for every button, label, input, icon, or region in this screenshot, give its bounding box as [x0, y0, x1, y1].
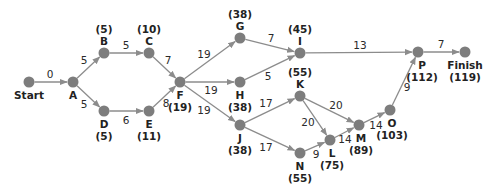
node-time-label: (38) — [228, 8, 252, 20]
node-p — [413, 47, 424, 58]
node-time-label: (11) — [137, 130, 161, 142]
node-name-label: P — [418, 59, 426, 71]
node-name-label: I — [298, 35, 302, 47]
node-c — [144, 48, 155, 59]
node-b — [99, 48, 110, 59]
node-time-label: (89) — [349, 144, 373, 156]
node-m — [354, 120, 365, 131]
node-name-label: B — [100, 35, 108, 47]
node-h — [235, 77, 246, 88]
node-name-label: Finish — [447, 59, 483, 71]
node-a — [68, 77, 79, 88]
node-name-label: C — [145, 35, 153, 47]
project-network-diagram: 05556781919197513717172020914149 StartAB… — [0, 0, 497, 190]
edge-weight-label: 7 — [165, 54, 172, 66]
node-name-label: N — [296, 160, 305, 172]
edge-weight-label: 13 — [353, 39, 366, 51]
node-name-label: E — [145, 118, 152, 130]
node-name-label: Start — [14, 89, 44, 101]
node-time-label: (112) — [406, 71, 438, 83]
edge-weight-label: 5 — [123, 39, 130, 51]
node-finish — [460, 47, 471, 58]
node-l — [325, 135, 336, 146]
edge-weight-label: 5 — [81, 98, 88, 110]
node-n — [295, 148, 306, 159]
node-time-label: (38) — [228, 101, 252, 113]
node-e — [144, 106, 155, 117]
node-g — [235, 33, 246, 44]
edge-weight-label: 17 — [259, 97, 272, 109]
edge-weight-label: 20 — [329, 99, 342, 111]
node-d — [99, 106, 110, 117]
node-time-label: (5) — [96, 23, 113, 35]
node-j — [235, 120, 246, 131]
node-name-label: H — [236, 89, 245, 101]
node-name-label: J — [237, 132, 242, 144]
node-o — [385, 105, 396, 116]
node-name-label: K — [296, 78, 305, 90]
node-time-label: (10) — [137, 23, 161, 35]
node-time-label: (103) — [376, 129, 408, 141]
edge-i-p — [305, 52, 412, 53]
edge-weight-label: 0 — [47, 68, 54, 80]
node-time-label: (55) — [288, 172, 312, 184]
node-name-label: M — [356, 132, 366, 144]
node-name-label: A — [69, 89, 78, 101]
node-time-label: (5) — [96, 130, 113, 142]
node-time-label: (75) — [320, 159, 344, 171]
node-labels-layer: StartAB(5)C(10)D(5)E(11)F(19)G(38)H(38)I… — [14, 8, 483, 184]
node-name-label: G — [236, 20, 245, 32]
edge-weight-label: 19 — [204, 84, 217, 96]
node-time-label: (119) — [449, 71, 481, 83]
node-time-label: (38) — [228, 144, 252, 156]
node-k — [295, 91, 306, 102]
node-f — [175, 77, 186, 88]
node-name-label: L — [329, 147, 336, 159]
edge-weight-label: 9 — [313, 148, 320, 160]
node-time-label: (45) — [288, 23, 312, 35]
edge-weight-label: 17 — [259, 141, 272, 153]
node-time-label: (19) — [168, 101, 192, 113]
edge-weight-label: 7 — [268, 32, 275, 44]
edge-weight-label: 5 — [81, 54, 88, 66]
node-time-label: (55) — [288, 66, 312, 78]
node-name-label: F — [176, 89, 183, 101]
edge-weight-label: 7 — [438, 38, 445, 50]
edge-weight-label: 19 — [197, 48, 210, 60]
node-name-label: O — [388, 117, 397, 129]
edge-weight-label: 19 — [197, 104, 210, 116]
edge-weight-label: 20 — [301, 116, 314, 128]
node-start — [24, 77, 35, 88]
edge-weight-label: 6 — [123, 114, 130, 126]
edge-weight-label: 5 — [265, 70, 272, 82]
node-name-label: D — [100, 118, 109, 130]
node-i — [295, 48, 306, 59]
